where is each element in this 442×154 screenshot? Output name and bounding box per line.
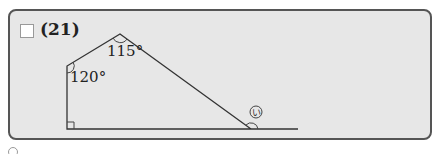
partial-circle-icon [8,147,18,154]
right-angle-marker-icon [67,122,74,129]
angle-label-left: 120° [70,68,106,86]
unknown-angle-label: い [252,108,261,118]
angle-label-top: 115° [107,42,143,60]
geometry-figure: 120° 115° い [0,0,442,154]
